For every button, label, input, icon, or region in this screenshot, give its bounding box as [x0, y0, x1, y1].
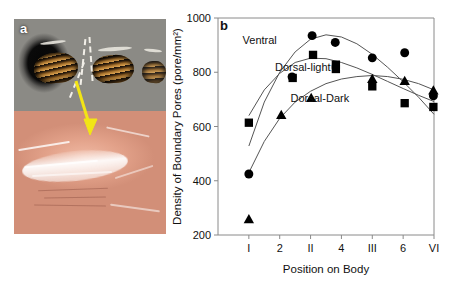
y-tick-label: 800 [193, 66, 211, 78]
data-point-triangle [367, 74, 377, 83]
photo-bottom-tissue [14, 111, 166, 234]
x-tick-label: 2 [277, 242, 283, 254]
data-point-square [245, 119, 253, 127]
x-tick-label: I [247, 242, 250, 254]
data-point-triangle [428, 85, 438, 94]
panel-a-label: a [20, 21, 27, 36]
panel-b-chart: 2004006008001000I2II4III6VIPosition on B… [168, 4, 454, 285]
scatter-plot-svg: 2004006008001000I2II4III6VIPosition on B… [168, 4, 454, 285]
data-point-circle [368, 53, 377, 62]
data-point-triangle [244, 214, 254, 223]
y-tick-label: 200 [193, 229, 211, 241]
series-annotation: Ventral [243, 34, 277, 46]
x-tick-label: 4 [338, 242, 344, 254]
x-tick-label: 6 [400, 242, 406, 254]
data-point-square [309, 51, 317, 59]
panel-a-photograph: a [14, 19, 166, 234]
data-point-circle [308, 31, 317, 40]
data-point-circle [400, 48, 409, 57]
y-tick-label: 1000 [187, 12, 211, 24]
series-annotation: Dorsal-Dark [290, 92, 349, 104]
x-tick-label: III [368, 242, 377, 254]
data-point-square [401, 99, 409, 107]
data-point-square [289, 74, 297, 82]
series-annotation: Dorsal-light [275, 61, 331, 73]
y-axis-title: Density of Boundary Pores (pore/mm²) [171, 28, 183, 225]
data-point-square [332, 65, 340, 73]
y-tick-label: 600 [193, 121, 211, 133]
panel-b-label: b [220, 18, 228, 33]
x-axis-title: Position on Body [283, 263, 370, 275]
x-tick-label: VI [429, 242, 439, 254]
photo-top-mesh [14, 19, 166, 111]
data-point-circle [331, 38, 340, 47]
data-point-circle [244, 169, 253, 178]
golden-band-region-3 [141, 60, 166, 84]
data-point-square [368, 82, 376, 90]
data-point-triangle [276, 110, 286, 119]
data-point-square [429, 103, 437, 111]
y-tick-label: 400 [193, 175, 211, 187]
x-tick-label: II [308, 242, 314, 254]
